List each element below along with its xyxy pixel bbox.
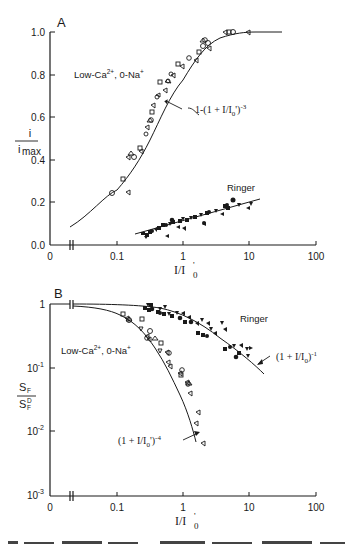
panel-a-label: A [57, 15, 66, 30]
panel-a-legend-ringer: Ringer [227, 182, 255, 193]
panel-b-fit-label-ringer: (1 + I/I0)-1 [276, 350, 318, 365]
panel-b-fit-curve-low-ca [73, 306, 196, 442]
y-tick-label: 0.2 [31, 197, 45, 208]
svg-text:0.1: 0.1 [110, 502, 124, 513]
svg-text:10: 10 [27, 363, 39, 374]
svg-text:0.1: 0.1 [110, 251, 124, 262]
y-tick-label: 0.6 [31, 112, 45, 123]
svg-text:D: D [27, 397, 32, 404]
panel-a-x-ticks: 0 0.1 1 10 100 [47, 240, 325, 262]
panel-b-legend-ringer: Ringer [240, 313, 268, 324]
y-tick-label: 0.8 [31, 70, 45, 81]
svg-text:0: 0 [193, 270, 198, 280]
panel-b-x-ticks: 0 0.1 1 10 100 [47, 300, 325, 513]
panel-b-label: B [54, 286, 63, 301]
svg-text:100: 100 [308, 251, 325, 262]
svg-text:i: i [29, 127, 31, 139]
svg-text:100: 100 [308, 502, 325, 513]
panel-a-ringer-markers [141, 198, 253, 240]
panel-a-fit-label: 1-(1 + I/I0')-3 [195, 103, 247, 118]
svg-text:S: S [19, 381, 26, 393]
svg-text:max: max [22, 146, 41, 157]
svg-text:0: 0 [47, 251, 53, 262]
panel-a-fit-line-ringer [135, 199, 260, 234]
svg-text:I/I: I/I [175, 514, 186, 528]
panel-b-y-label: S F S F D [17, 381, 36, 411]
svg-text:': ' [194, 511, 196, 521]
y-tick-label: 1.0 [31, 27, 45, 38]
svg-text:I/I: I/I [174, 263, 185, 277]
panel-b-fit-label-low-ca: (1 + I/I0')-4 [118, 434, 161, 449]
panel-a-y-label: i i max [15, 127, 41, 157]
svg-text:-2: -2 [38, 424, 44, 431]
svg-text:1: 1 [180, 251, 186, 262]
svg-text:F: F [27, 387, 31, 394]
svg-text:-3: -3 [38, 488, 44, 495]
svg-text:0: 0 [194, 521, 199, 531]
svg-text:': ' [193, 260, 195, 270]
panel-a-legend-low-ca: Low-Ca2+, 0-Na+ [74, 68, 144, 80]
panel-a-y-ticks: 1.0 0.8 0.6 0.4 0.2 0.0 [31, 27, 55, 251]
svg-text:1: 1 [180, 502, 186, 513]
figure: A 1.0 0.8 0.6 0.4 0.2 0.0 i i max [0, 0, 350, 544]
svg-text:10: 10 [27, 426, 39, 437]
svg-text:10: 10 [243, 502, 255, 513]
svg-text:10: 10 [27, 490, 39, 501]
panel-b-x-label: I/I 0 ' [175, 511, 199, 531]
svg-text:-1: -1 [38, 361, 44, 368]
panel-a-fit-curve-low-ca [70, 32, 282, 227]
svg-text:i: i [18, 143, 20, 155]
svg-text:1: 1 [39, 299, 45, 310]
panel-b-low-ca-markers [121, 312, 205, 446]
panel-b-ringer-markers [143, 303, 253, 359]
panel-b: B 1 10 -1 10 -2 10 -3 S F S F D [17, 286, 325, 531]
panel-b-legend-low-ca: Low-Ca2+, 0-Na+ [61, 344, 131, 356]
svg-text:S: S [19, 398, 26, 410]
panel-a-x-label: I/I 0 ' [174, 260, 198, 280]
svg-text:0: 0 [47, 502, 53, 513]
y-tick-label: 0.0 [31, 240, 45, 251]
svg-text:F: F [27, 404, 31, 411]
svg-text:10: 10 [243, 251, 255, 262]
panel-a: A 1.0 0.8 0.6 0.4 0.2 0.0 i i max [15, 15, 325, 280]
